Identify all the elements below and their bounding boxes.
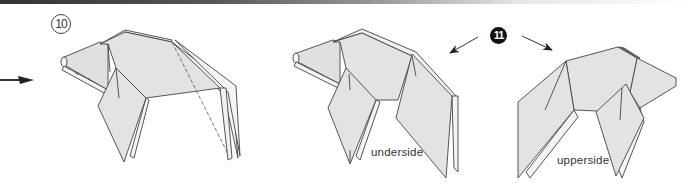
step-11-right-arrow	[522, 36, 552, 50]
step-10-figure	[61, 30, 240, 162]
step-10-badge: 10	[51, 14, 71, 34]
upperside-label: upperside	[557, 154, 609, 166]
step-11-left-arrow	[450, 37, 478, 53]
step-11-badge: 11	[490, 27, 507, 44]
left-edge-arrow	[0, 76, 34, 84]
underside-label: underside	[371, 146, 423, 158]
